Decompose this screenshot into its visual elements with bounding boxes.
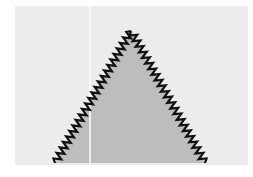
serrated-triangle-diagram — [0, 0, 253, 177]
